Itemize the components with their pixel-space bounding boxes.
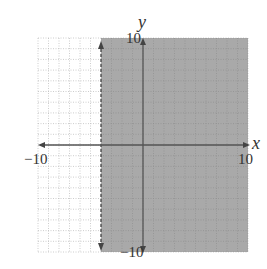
y-axis-label: y <box>136 12 146 32</box>
x-min-tick-label: −10 <box>24 151 47 167</box>
y-min-tick-label: −10 <box>120 244 143 260</box>
x-max-tick-label: 10 <box>238 151 253 167</box>
y-max-tick-label: 10 <box>126 30 141 46</box>
coordinate-plane: x y −10 10 10 −10 <box>0 0 267 269</box>
x-axis-label: x <box>251 133 260 153</box>
